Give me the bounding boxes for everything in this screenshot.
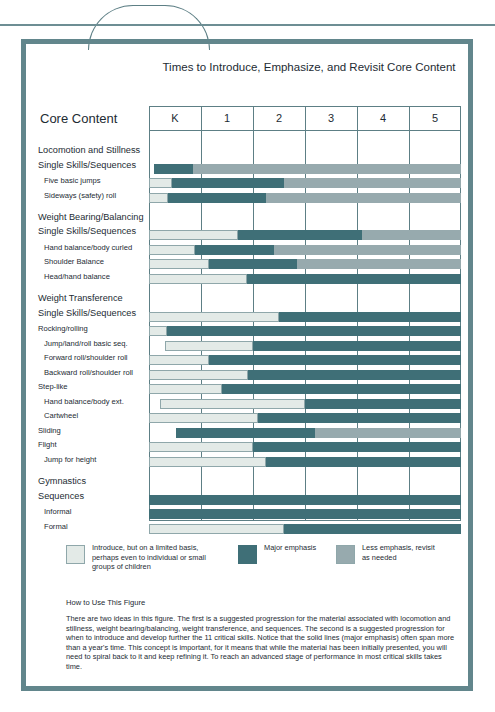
bar-segment-major: [209, 355, 461, 365]
page-title: Times to Introduce, Emphasize, and Revis…: [150, 60, 468, 75]
bar-row: [149, 355, 461, 365]
bar-segment-intro: [149, 384, 222, 394]
bar-segment-major: [305, 399, 461, 409]
row-label: Gymnastics: [38, 477, 86, 486]
row-label: Single Skills/Sequences: [38, 161, 136, 170]
legend-swatch-introduce: [66, 545, 85, 564]
row-label: Cartwheel: [44, 411, 78, 420]
bar-segment-major: [154, 164, 193, 174]
bar-row: [149, 384, 461, 394]
howto-heading: How to Use This Figure: [66, 598, 145, 607]
row-label: Flight: [38, 440, 57, 449]
bar-segment-major: [266, 457, 461, 467]
bar-segment-intro: [149, 413, 258, 423]
bar-row: [149, 259, 461, 269]
bar-segment-intro: [149, 524, 284, 534]
bar-segment-intro: [149, 245, 195, 255]
bar-row: [149, 428, 461, 438]
bar-segment-intro: [149, 230, 238, 240]
bar-row: [149, 312, 461, 322]
row-label: Hand balance/body ext.: [44, 397, 124, 406]
bar-segment-intro: [149, 193, 168, 203]
bar-segment-intro: [149, 355, 209, 365]
bar-segment-major: [279, 312, 461, 322]
bar-row: [149, 341, 461, 351]
bar-segment-major: [167, 326, 461, 336]
bar-segment-major: [149, 495, 461, 505]
legend-swatch-less_emphasis: [336, 545, 355, 564]
bar-row: [149, 442, 461, 452]
bar-segment-major: [247, 274, 461, 284]
bar-segment-major: [172, 178, 284, 188]
chart-legend: Introduce, but on a limited basis, perha…: [66, 543, 456, 589]
bar-segment-major: [168, 193, 266, 203]
bar-segment-intro: [165, 341, 253, 351]
row-label: Locomotion and Stillness: [38, 146, 140, 155]
frame-right-edge: [468, 39, 473, 691]
row-label: Backward roll/shoulder roll: [44, 368, 133, 377]
row-label: Head/hand balance: [44, 272, 110, 281]
bar-row: [149, 164, 461, 174]
bar-row: [149, 399, 461, 409]
bar-segment-less: [274, 245, 461, 255]
bar-segment-major: [222, 384, 461, 394]
bar-row: [149, 524, 461, 534]
bar-row: [149, 245, 461, 255]
bar-segment-major: [238, 230, 362, 240]
bar-segment-major: [149, 509, 461, 519]
bar-segment-intro: [149, 312, 279, 322]
legend-label-introduce: Introduce, but on a limited basis, perha…: [92, 543, 224, 572]
row-label: Rocking/rolling: [38, 324, 88, 333]
bar-segment-major: [258, 413, 461, 423]
row-label: Shoulder Balance: [44, 257, 104, 266]
legend-swatch-major_emphasis: [238, 545, 257, 564]
bar-row: [149, 274, 461, 284]
bar-segment-major: [253, 341, 461, 351]
legend-label-major_emphasis: Major emphasis: [264, 543, 326, 553]
bar-row: [149, 193, 461, 203]
chart-plot-area: [149, 106, 461, 521]
row-label-column: Locomotion and StillnessSingle Skills/Se…: [38, 106, 146, 526]
bar-segment-major: [248, 370, 461, 380]
row-label: Single Skills/Sequences: [38, 309, 136, 318]
row-label: Hand balance/body curled: [44, 243, 132, 252]
bar-segment-less: [315, 428, 461, 438]
bar-segment-less: [297, 259, 461, 269]
bar-row: [149, 370, 461, 380]
row-label: Step-like: [38, 382, 68, 391]
bar-row: [149, 326, 461, 336]
bar-segment-intro: [149, 442, 253, 452]
bar-row: [149, 457, 461, 467]
row-label: Weight Bearing/Balancing: [38, 213, 144, 222]
bar-segment-major: [176, 428, 315, 438]
bar-segment-intro: [160, 399, 305, 409]
bar-segment-intro: [149, 274, 247, 284]
row-label: Five basic jumps: [44, 176, 101, 185]
bar-row: [149, 509, 461, 519]
howto-body: There are two ideas in this figure. The …: [66, 614, 456, 672]
bar-row: [149, 495, 461, 505]
bar-segment-less: [362, 230, 461, 240]
bar-segment-intro: [149, 326, 167, 336]
bar-segment-major: [253, 442, 461, 452]
frame-left-edge: [21, 39, 26, 691]
row-label: Single Skills/Sequences: [38, 227, 136, 236]
bar-segment-intro: [149, 178, 172, 188]
row-label: Weight Transference: [38, 294, 123, 303]
bar-segment-major: [284, 524, 461, 534]
frame-bottom-edge: [21, 686, 473, 691]
bar-row: [149, 230, 461, 240]
row-label: Forward roll/shoulder roll: [44, 353, 128, 362]
row-label: Sideways (safety) roll: [44, 191, 116, 200]
bar-segment-major: [209, 259, 297, 269]
row-label: Jump/land/roll basic seq.: [44, 339, 128, 348]
bar-segment-less: [266, 193, 461, 203]
bar-segment-intro: [149, 259, 209, 269]
frame-top-edge: [21, 39, 473, 44]
bar-segment-intro: [149, 370, 248, 380]
bar-segment-less: [193, 164, 461, 174]
legend-label-less_emphasis: Less emphasis, revisit as needed: [362, 543, 444, 562]
bar-row: [149, 178, 461, 188]
bar-segment-intro: [149, 457, 266, 467]
bar-row: [149, 413, 461, 423]
